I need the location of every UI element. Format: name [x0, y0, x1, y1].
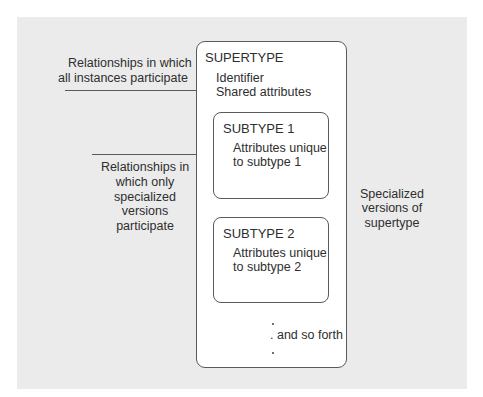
label-all-instances-line2: all instances participate	[58, 71, 186, 86]
and-so-forth-text: . and so forth	[270, 328, 343, 343]
subtype2-attr-line2: to subtype 2	[233, 260, 301, 275]
label-versions-line2: versions of	[352, 201, 432, 216]
ellipsis-dot-bottom	[272, 352, 274, 354]
subtype1-attr-line1: Attributes unique	[233, 141, 327, 156]
label-specialized-line2: which only	[95, 175, 195, 190]
subtype1-attr-line2: to subtype 1	[233, 155, 301, 170]
subtype2-attr-line1: Attributes unique	[233, 246, 327, 261]
label-versions-line1: Specialized	[352, 187, 432, 202]
supertype-title: SUPERTYPE	[205, 51, 284, 66]
label-specialized-line1: Relationships in	[95, 160, 195, 175]
connector-specialized	[92, 154, 213, 155]
label-versions-line3: supertype	[352, 216, 432, 231]
label-specialized-line4: versions	[95, 204, 195, 219]
connector-all-instances	[65, 90, 196, 91]
label-all-instances-line1: Relationships in which	[68, 56, 186, 71]
subtype2-title: SUBTYPE 2	[223, 227, 295, 242]
subtype1-title: SUBTYPE 1	[223, 122, 295, 137]
supertype-identifier: Identifier	[216, 71, 264, 86]
label-specialized-line3: specialized	[95, 190, 195, 205]
ellipsis-dot-top	[272, 323, 274, 325]
supertype-shared-attributes: Shared attributes	[216, 85, 311, 100]
label-specialized-line5: participate	[95, 219, 195, 234]
